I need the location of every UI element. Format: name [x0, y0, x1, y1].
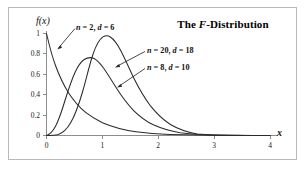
series-1-d-value: = 18 [177, 46, 194, 55]
y-axis-label: f(x) [36, 15, 50, 26]
series-annotation-n20-d18: n = 20, d = 18 [147, 47, 194, 55]
y-tick-label-1: 1 [22, 30, 40, 38]
x-axis-label: x [277, 127, 282, 138]
x-tick-marks [47, 136, 271, 140]
x-tick-label-1: 1 [94, 142, 110, 150]
series-0-n-value: = 2, [81, 23, 98, 32]
y-tick-label-0.4: 0.4 [22, 91, 40, 99]
series-2-d-value: = 10 [173, 63, 190, 72]
series-annotation-n2-d6: n = 2, d = 6 [76, 24, 114, 32]
y-tick-label-0.2: 0.2 [22, 112, 40, 120]
annotation-leader-n20-d18 [115, 52, 145, 68]
annotation-leader-n2-d6 [57, 29, 75, 50]
series-0-d-value: = 6 [102, 23, 115, 32]
f-distribution-figure: 1 0.8 0.6 0.4 0.2 0 0 1 2 3 4 f(x) x The… [0, 0, 306, 170]
x-tick-label-4: 4 [262, 142, 278, 150]
chart-title-suffix: -Distribution [206, 18, 268, 30]
x-tick-label-2: 2 [150, 142, 166, 150]
x-tick-label-0: 0 [39, 142, 55, 150]
y-tick-label-0.8: 0.8 [22, 50, 40, 58]
x-tick-label-3: 3 [206, 142, 222, 150]
series-1-n-value: = 20, [152, 46, 173, 55]
y-tick-label-0.6: 0.6 [22, 71, 40, 79]
y-tick-marks [43, 34, 47, 136]
chart-title: The F-Distribution [158, 18, 288, 30]
chart-title-prefix: The [177, 18, 199, 30]
series-annotation-n8-d10: n = 8, d = 10 [147, 64, 190, 72]
y-tick-label-0: 0 [22, 132, 40, 140]
series-2-n-value: = 8, [152, 63, 169, 72]
